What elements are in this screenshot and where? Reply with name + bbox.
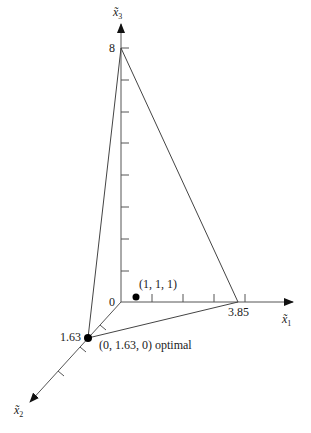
x2-intercept-label: 1.63 [60, 330, 81, 344]
x2-axis-label: x̃2 [13, 403, 23, 419]
optimal-point-label: (0, 1.63, 0) optimal [99, 338, 192, 352]
x1-ticks [152, 294, 245, 302]
x3-intercept-label: 8 [109, 41, 115, 55]
x3-ticks [121, 48, 129, 271]
feasible-region-diagram: x̃3 x̃1 x̃2 8 3.85 1.63 0 (1, 1, 1) (0, … [0, 0, 311, 433]
optimal-point [84, 334, 92, 342]
x1-intercept-label: 3.85 [228, 305, 249, 319]
x3-axis-label: x̃3 [112, 5, 122, 21]
x2-axis [30, 302, 121, 402]
x1-axis-label: x̃1 [281, 312, 291, 328]
interior-point [133, 294, 140, 301]
origin-label: 0 [109, 295, 115, 309]
interior-point-label: (1, 1, 1) [139, 277, 177, 291]
